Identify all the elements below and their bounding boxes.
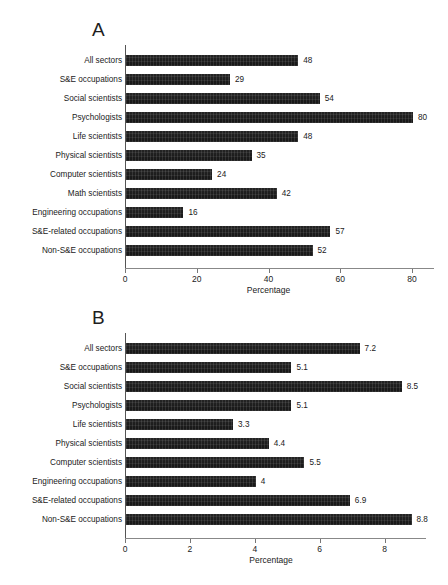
category-label: Engineering occupations <box>0 476 122 487</box>
category-label: Physical scientists <box>0 438 122 449</box>
bar-row: Life scientists3.3 <box>0 419 448 438</box>
bar-value-label: 48 <box>303 55 312 66</box>
bar-value-label: 29 <box>235 74 244 85</box>
chart-panel-a: A 020406080PercentageAll sectors48S&E oc… <box>0 0 448 295</box>
category-label: Social scientists <box>0 381 122 392</box>
x-axis-tick <box>340 269 341 273</box>
plot-area-a: 020406080PercentageAll sectors48S&E occu… <box>0 0 448 295</box>
category-label: Engineering occupations <box>0 207 122 218</box>
bar-value-label: 16 <box>188 207 197 218</box>
category-label: Life scientists <box>0 419 122 430</box>
x-axis-tick-label: 8 <box>370 544 400 554</box>
bar-row: Psychologists5.1 <box>0 400 448 419</box>
bar-value-label: 5.1 <box>296 362 307 373</box>
bar-value-label: 5.5 <box>309 457 320 468</box>
bar <box>126 55 298 66</box>
x-axis-tick-label: 0 <box>110 544 140 554</box>
bar <box>126 112 413 123</box>
x-axis-tick <box>412 269 413 273</box>
bar-value-label: 80 <box>418 112 427 123</box>
bar <box>126 400 291 411</box>
bar-value-label: 4 <box>261 476 266 487</box>
x-axis-tick <box>197 269 198 273</box>
bar-value-label: 8.5 <box>407 381 418 392</box>
category-label: Computer scientists <box>0 169 122 180</box>
x-axis-tick <box>125 269 126 273</box>
category-label: S&E occupations <box>0 362 122 373</box>
category-label: All sectors <box>0 55 122 66</box>
bar-row: Psychologists80 <box>0 112 448 131</box>
bar <box>126 514 412 525</box>
category-label: Physical scientists <box>0 150 122 161</box>
category-label: Life scientists <box>0 131 122 142</box>
x-axis-tick-label: 6 <box>305 544 335 554</box>
bar <box>126 362 291 373</box>
category-label: S&E occupations <box>0 74 122 85</box>
bar-row: Social scientists54 <box>0 93 448 112</box>
bar-value-label: 48 <box>303 131 312 142</box>
x-axis-tick-label: 4 <box>240 544 270 554</box>
bar <box>126 495 350 506</box>
category-label: Non-S&E occupations <box>0 514 122 525</box>
bar <box>126 438 269 449</box>
bar-row: All sectors48 <box>0 55 448 74</box>
category-label: All sectors <box>0 343 122 354</box>
category-label: Computer scientists <box>0 457 122 468</box>
bar-row: Engineering occupations4 <box>0 476 448 495</box>
bar-value-label: 4.4 <box>274 438 285 449</box>
bar-value-label: 42 <box>282 188 291 199</box>
x-axis-tick <box>320 539 321 543</box>
bar-row: S&E-related occupations57 <box>0 226 448 245</box>
x-axis-tick-label: 2 <box>175 544 205 554</box>
plot-area-b: 02468PercentageAll sectors7.2S&E occupat… <box>0 295 448 585</box>
bar <box>126 131 298 142</box>
bar <box>126 457 304 468</box>
chart-panel-b: B 02468PercentageAll sectors7.2S&E occup… <box>0 295 448 585</box>
bar <box>126 476 256 487</box>
bar-row: Computer scientists5.5 <box>0 457 448 476</box>
x-axis-tick <box>190 539 191 543</box>
x-axis-tick-label: 80 <box>397 274 427 284</box>
bar-value-label: 5.1 <box>296 400 307 411</box>
bar-value-label: 35 <box>257 150 266 161</box>
x-axis-tick <box>125 539 126 543</box>
bar-row: Engineering occupations16 <box>0 207 448 226</box>
bar-value-label: 54 <box>325 93 334 104</box>
x-axis-tick-label: 0 <box>110 274 140 284</box>
bar-row: Non-S&E occupations52 <box>0 245 448 264</box>
bar-value-label: 8.8 <box>417 514 428 525</box>
x-axis-line <box>125 538 426 539</box>
category-label: Psychologists <box>0 400 122 411</box>
bar-row: Physical scientists35 <box>0 150 448 169</box>
bar-value-label: 7.2 <box>365 343 376 354</box>
bar-row: Non-S&E occupations8.8 <box>0 514 448 533</box>
bar-row: S&E occupations29 <box>0 74 448 93</box>
bar <box>126 419 233 430</box>
x-axis-tick <box>255 539 256 543</box>
bar-value-label: 52 <box>318 245 327 256</box>
x-axis-title: Percentage <box>191 555 351 565</box>
bar <box>126 188 277 199</box>
category-label: Math scientists <box>0 188 122 199</box>
bar <box>126 245 313 256</box>
x-axis-title: Percentage <box>189 285 349 295</box>
bar-row: Life scientists48 <box>0 131 448 150</box>
x-axis-tick-label: 40 <box>254 274 284 284</box>
x-axis-tick <box>385 539 386 543</box>
bar-row: S&E occupations5.1 <box>0 362 448 381</box>
bar <box>126 207 183 218</box>
bar <box>126 381 402 392</box>
x-axis-line <box>125 268 434 269</box>
bar-value-label: 24 <box>217 169 226 180</box>
category-label: S&E-related occupations <box>0 226 122 237</box>
bar-value-label: 57 <box>335 226 344 237</box>
bar-row: Social scientists8.5 <box>0 381 448 400</box>
bar-row: S&E-related occupations6.9 <box>0 495 448 514</box>
bar-row: Computer scientists24 <box>0 169 448 188</box>
bar <box>126 93 320 104</box>
bar-row: All sectors7.2 <box>0 343 448 362</box>
category-label: Non-S&E occupations <box>0 245 122 256</box>
bar <box>126 150 252 161</box>
bar-value-label: 3.3 <box>238 419 249 430</box>
bar <box>126 226 330 237</box>
